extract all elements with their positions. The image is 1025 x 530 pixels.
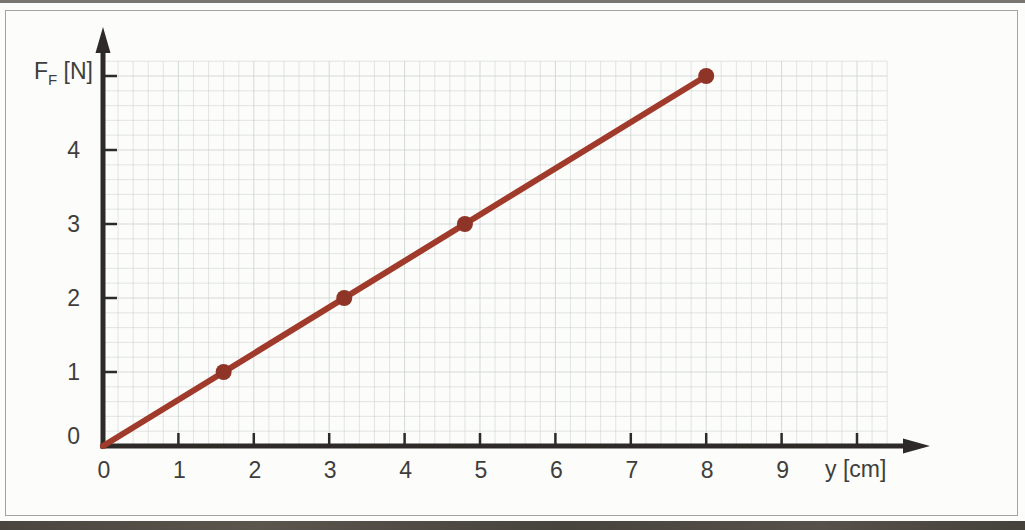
data-point	[457, 216, 473, 232]
x-tick-label: 2	[248, 457, 261, 483]
x-tick-label: 5	[475, 457, 488, 483]
x-axis-title: y [cm]	[825, 457, 886, 481]
y-tick-label: 0	[67, 423, 80, 449]
data-point	[698, 68, 714, 84]
data-point	[336, 290, 352, 306]
x-tick-label: 7	[625, 457, 638, 483]
y-tick-label: 1	[67, 359, 80, 385]
x-tick-label: 6	[550, 457, 563, 483]
chart-canvas: 012345678901234	[0, 0, 1025, 530]
x-tick-label: 4	[399, 457, 412, 483]
x-tick-label: 1	[173, 457, 186, 483]
y-axis-title-unit: [N]	[57, 58, 93, 84]
x-tick-label: 0	[98, 457, 111, 483]
y-tick-label: 4	[67, 137, 80, 163]
y-axis-title-subscript: F	[48, 71, 57, 88]
x-tick-label: 9	[776, 457, 789, 483]
y-axis-title: FF [N]	[34, 59, 93, 92]
grid-lines	[103, 61, 887, 446]
y-tick-label: 2	[67, 285, 80, 311]
data-point	[216, 364, 232, 380]
x-tick-label: 3	[324, 457, 337, 483]
x-tick-label: 8	[701, 457, 714, 483]
y-tick-label: 3	[67, 211, 80, 237]
y-axis-title-symbol: F	[34, 58, 48, 84]
page-bottom-edge	[0, 521, 1025, 530]
figure-page: 012345678901234 FF [N] y [cm]	[0, 0, 1025, 530]
